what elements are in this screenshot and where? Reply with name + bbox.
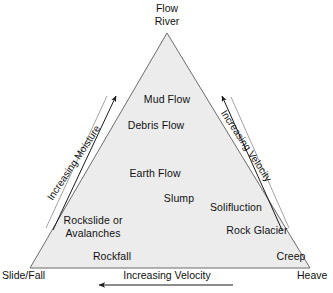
item-label-solifluction: Solifluction (210, 201, 262, 214)
item-label-rock-glacier: Rock Glacier (226, 224, 287, 237)
apex-label: Flow River (155, 2, 180, 28)
item-label-rockslide-or-avalanches: Rockslide or Avalanches (64, 214, 123, 239)
item-label-creep: Creep (276, 250, 305, 263)
apex-label-line1: Flow (155, 2, 180, 15)
item-label-rockslide-line2: Avalanches (64, 227, 123, 240)
item-label-rockslide-line1: Rockslide or (64, 214, 123, 227)
apex-label-line2: River (155, 15, 180, 28)
corner-label-heave: Heave (297, 269, 327, 281)
item-label-debris-flow: Debris Flow (128, 119, 185, 132)
item-label-earth-flow: Earth Flow (129, 167, 180, 180)
corner-label-slide-fall: Slide/Fall (2, 269, 45, 281)
landslide-classification-triangle-diagram: Flow River Mud Flow Debris Flow Earth Fl… (0, 0, 333, 293)
item-label-rockfall: Rockfall (93, 250, 131, 263)
item-label-slump: Slump (164, 192, 194, 205)
item-label-mud-flow: Mud Flow (144, 93, 190, 106)
bottom-axis-label: Increasing Velocity (123, 269, 211, 281)
